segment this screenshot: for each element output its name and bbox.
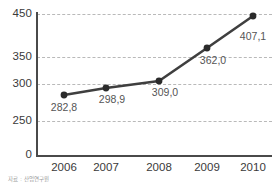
series-line-group [0, 0, 280, 188]
point-label-2010: 407,1 [240, 31, 266, 42]
x-tick-label-2007: 2007 [84, 162, 128, 174]
x-tick-label-2008: 2008 [137, 162, 181, 174]
x-tick-label-2010: 2010 [231, 162, 275, 174]
data-point-marker [61, 92, 68, 99]
x-tick-label-2009: 2009 [185, 162, 229, 174]
data-point-marker [156, 78, 163, 85]
point-label-2008: 309,0 [152, 87, 178, 98]
x-tick-label-2006: 2006 [42, 162, 86, 174]
data-point-marker [204, 45, 211, 52]
chart-source-footnote: 자료 : 산업연구원 [8, 177, 50, 183]
point-label-2006: 282,8 [51, 102, 77, 113]
point-label-2009: 362,0 [200, 55, 226, 66]
data-point-marker [250, 13, 257, 20]
data-point-marker [103, 85, 110, 92]
line-chart: 450 350 300 250 0 282,8 298,9 309,0 362,… [0, 0, 280, 188]
point-label-2007: 298,9 [99, 94, 125, 105]
